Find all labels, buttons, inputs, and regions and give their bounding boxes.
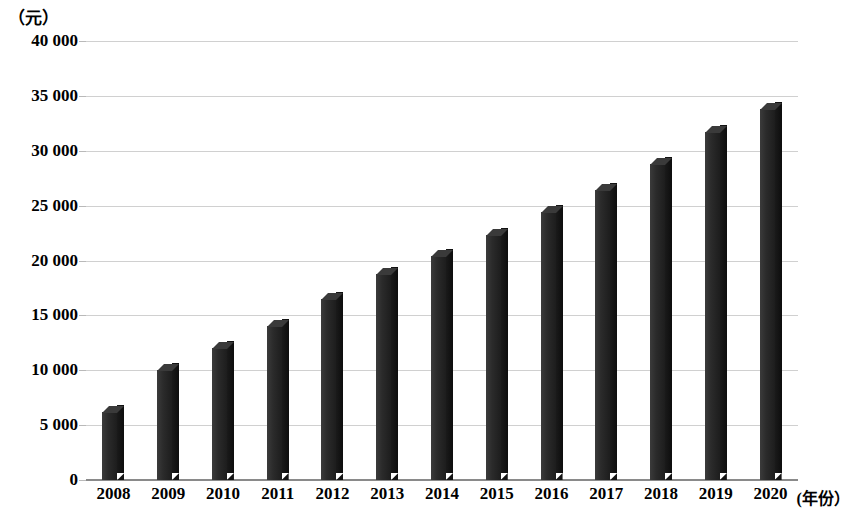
bar [595,183,617,480]
x-axis-caption: (年份） [797,485,850,508]
bar-base-wedge [446,473,453,480]
bar-base-wedge [556,473,563,480]
x-axis-tick-label: 2009 [151,484,185,504]
bar-base-wedge [282,473,289,480]
y-axis-tick-label: 25 000 [0,196,78,216]
bar [102,405,124,480]
bar [486,228,508,480]
bar-front-face [157,370,172,480]
bar-base-wedge [117,473,124,480]
x-axis-tick-label: 2013 [370,484,404,504]
x-axis-tick-labels: 2008200920102011201220132014201520162017… [86,484,798,508]
x-axis-tick-label: 2012 [315,484,349,504]
x-axis-tick-label: 2018 [644,484,678,504]
x-axis-tick-label: 2020 [754,484,788,504]
bar [431,249,453,480]
bar-base-wedge [391,473,398,480]
bar-front-face [486,235,501,480]
x-axis-tick-label: 2011 [261,484,294,504]
bar-front-face [376,274,391,480]
y-axis-tick-labels: 05 00010 00015 00020 00025 00030 00035 0… [0,41,86,480]
bar-side-face [610,183,617,473]
bar [321,292,343,480]
x-axis-tick-label: 2019 [699,484,733,504]
bar-base-wedge [172,473,179,480]
bar-front-face [212,348,227,480]
bar-front-face [541,212,556,480]
bar [650,157,672,480]
y-axis-tick-label: 5 000 [0,415,78,435]
bar-side-face [391,267,398,473]
bar-side-face [446,249,453,473]
bar-base-wedge [501,473,508,480]
bar-front-face [267,326,282,480]
y-axis-tick-label: 35 000 [0,86,78,106]
y-axis-tick-label: 20 000 [0,251,78,271]
x-axis-tick-label: 2008 [96,484,130,504]
bar-side-face [775,102,782,473]
bar-side-face [227,341,234,473]
y-axis-tick-label: 15 000 [0,305,78,325]
bar-chart: （元） 05 00010 00015 00020 00025 00030 000… [0,0,852,508]
bar-side-face [501,228,508,473]
bar-side-face [172,363,179,473]
bar [376,267,398,480]
bar [760,102,782,480]
bar [705,125,727,480]
y-axis-unit-caption: （元） [8,4,59,29]
plot-area [86,41,798,480]
bar-base-wedge [227,473,234,480]
bar [212,341,234,480]
bar-series [86,41,798,480]
bar-front-face [595,190,610,480]
bar-side-face [282,319,289,473]
y-axis-tick-label: 10 000 [0,360,78,380]
bar-base-wedge [775,473,782,480]
bar-front-face [102,412,117,480]
bar-front-face [760,109,775,480]
bar-front-face [650,164,665,480]
x-axis-tick-label: 2014 [425,484,459,504]
bar-side-face [556,205,563,473]
bar-base-wedge [720,473,727,480]
y-axis-tick-label: 0 [0,470,78,490]
bar [157,363,179,480]
y-axis-tick-label: 40 000 [0,31,78,51]
x-axis-tick-label: 2010 [206,484,240,504]
bar-front-face [321,299,336,480]
bar-base-wedge [665,473,672,480]
x-axis-tick-label: 2015 [480,484,514,504]
bar-base-wedge [610,473,617,480]
bar-side-face [117,405,124,473]
bar-side-face [720,125,727,473]
y-axis-tick-label: 30 000 [0,141,78,161]
bar-front-face [705,132,720,480]
bar-side-face [336,292,343,473]
bar [267,319,289,480]
bar-front-face [431,256,446,480]
bar-side-face [665,157,672,473]
bar-base-wedge [336,473,343,480]
x-axis-tick-label: 2016 [535,484,569,504]
x-axis-tick-label: 2017 [589,484,623,504]
bar [541,205,563,480]
